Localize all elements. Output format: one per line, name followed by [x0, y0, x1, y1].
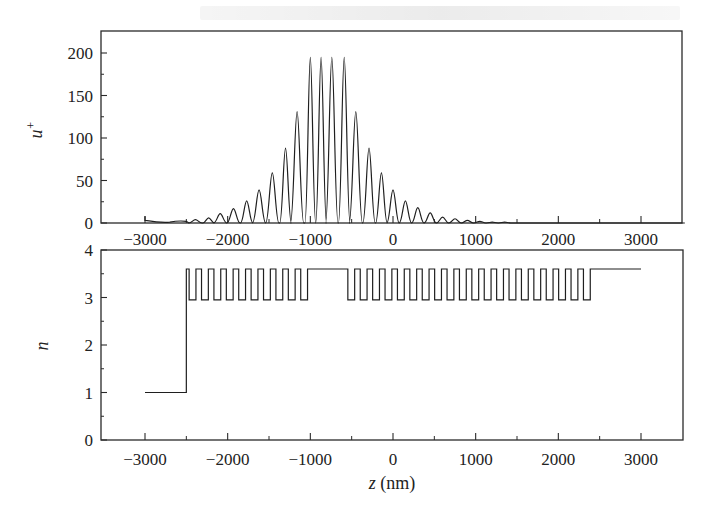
y-tick-label: 0: [85, 431, 94, 450]
y-tick-label: 0: [85, 214, 94, 233]
x-tick-label: −1000: [289, 450, 333, 469]
bottom-x-axis: −3000−2000−10000100020003000: [123, 433, 658, 469]
y-tick-label: 1: [85, 384, 94, 403]
x-tick-label: −2000: [206, 230, 250, 249]
top-y-axis-title: u+: [24, 121, 46, 138]
y-tick-label: 3: [85, 289, 94, 308]
bottom-x-axis-title: z (nm): [368, 473, 416, 494]
x-tick-label: −2000: [206, 450, 250, 469]
y-tick-label: 100: [68, 129, 94, 148]
x-tick-label: 1000: [459, 450, 493, 469]
x-tick-label: 0: [389, 230, 398, 249]
refractive-index-profile: [145, 269, 641, 393]
x-tick-label: 0: [389, 450, 398, 469]
bottom-y-axis-title: n: [32, 342, 52, 351]
y-tick-label: 200: [68, 44, 94, 63]
x-tick-label: −3000: [123, 230, 167, 249]
top-panel: 050100150200 −3000−2000−1000010002000300…: [24, 31, 685, 249]
y-tick-label: 150: [68, 87, 94, 106]
x-tick-label: 2000: [541, 230, 575, 249]
top-x-axis: −3000−2000−10000100020003000: [123, 216, 658, 249]
y-tick-label: 2: [85, 336, 94, 355]
x-tick-label: 3000: [624, 230, 658, 249]
x-tick-label: 1000: [459, 230, 493, 249]
x-tick-label: 2000: [541, 450, 575, 469]
bottom-panel: 01234 −3000−2000−10000100020003000 n z (…: [32, 241, 683, 494]
x-tick-label: −1000: [289, 230, 333, 249]
y-tick-label: 50: [76, 172, 93, 191]
x-tick-label: 3000: [624, 450, 658, 469]
figure: 050100150200 −3000−2000−1000010002000300…: [0, 0, 718, 523]
bottom-y-axis: 01234: [85, 241, 108, 450]
x-tick-label: −3000: [123, 450, 167, 469]
y-tick-label: 4: [85, 241, 94, 260]
field-enhancement-curve: [145, 57, 685, 223]
